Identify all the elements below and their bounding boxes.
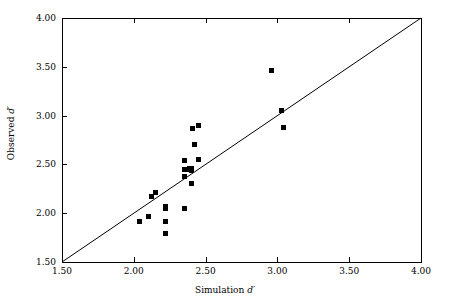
data-point-marker	[189, 166, 194, 171]
y-axis-label-wrapper: Observed d′	[4, 0, 18, 280]
data-point-marker	[146, 214, 151, 219]
y-axis-label: Observed d′	[6, 78, 16, 188]
data-point-marker	[192, 142, 197, 147]
data-point-marker	[196, 123, 201, 128]
x-tick-label: 3.50	[329, 266, 369, 276]
y-tick-mark	[62, 262, 67, 263]
x-axis-label: Simulation d′	[0, 285, 450, 295]
x-tick-label: 2.00	[114, 266, 154, 276]
plot-area	[62, 18, 421, 262]
y-tick-label: 4.00	[22, 13, 56, 23]
x-tick-label: 3.00	[257, 266, 297, 276]
axis-bottom-spine	[62, 262, 422, 263]
y-tick-label: 2.00	[22, 208, 56, 218]
x-tick-label: 2.50	[186, 266, 226, 276]
data-point-marker	[137, 219, 142, 224]
scatter-plot-figure: 1.502.002.503.003.504.00 1.502.002.503.0…	[0, 0, 450, 307]
y-tick-label: 2.50	[22, 159, 56, 169]
data-point-marker	[281, 125, 286, 130]
data-point-marker	[182, 158, 187, 163]
y-tick-label: 3.00	[22, 111, 56, 121]
y-tick-label: 3.50	[22, 62, 56, 72]
data-point-marker	[163, 219, 168, 224]
data-point-marker	[190, 126, 195, 131]
axis-right-spine	[421, 18, 422, 263]
data-point-marker	[196, 157, 201, 162]
data-point-marker	[163, 231, 168, 236]
data-point-marker	[189, 181, 194, 186]
x-tick-label: 1.50	[42, 266, 82, 276]
x-tick-mark-top	[421, 18, 422, 23]
data-point-marker	[269, 68, 274, 73]
data-point-marker	[153, 190, 158, 195]
data-point-marker	[182, 174, 187, 179]
data-point-marker	[279, 108, 284, 113]
identity-reference-line	[62, 18, 421, 262]
x-tick-mark	[421, 257, 422, 262]
data-point-marker	[182, 206, 187, 211]
x-tick-label: 4.00	[401, 266, 441, 276]
data-point-marker	[163, 206, 168, 211]
